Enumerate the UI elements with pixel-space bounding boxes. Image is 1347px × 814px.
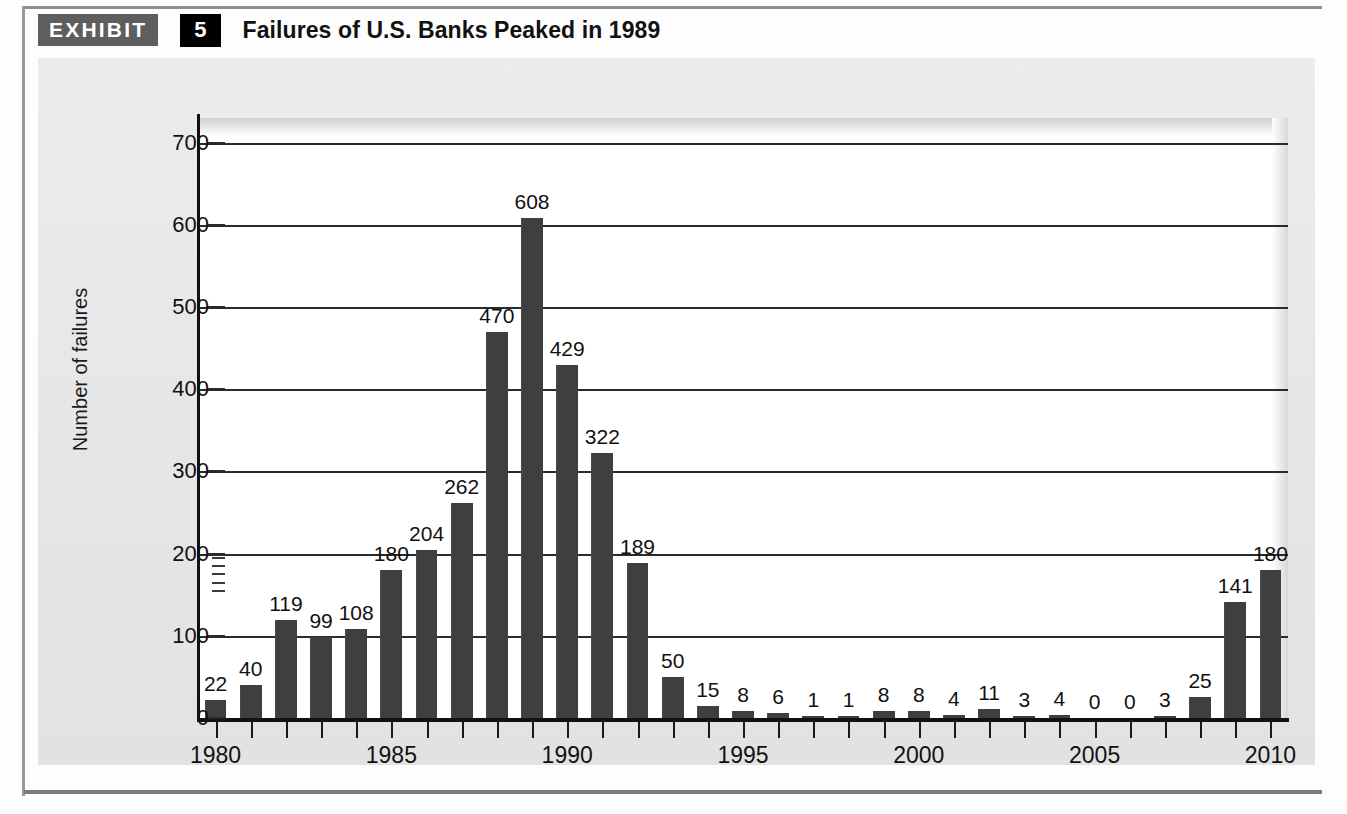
bar-value-label: 15 — [696, 678, 719, 702]
bar — [240, 685, 262, 718]
exhibit-badge: EXHIBIT — [38, 14, 158, 46]
bar-value-label: 3 — [1159, 688, 1171, 712]
y-axis-minor-tick — [212, 590, 225, 592]
x-axis-tick-mark — [638, 722, 640, 738]
bar-value-label: 40 — [239, 657, 262, 681]
y-axis-tick-mark — [208, 306, 225, 308]
x-axis-tick-label: 2005 — [1069, 742, 1120, 769]
bar-value-label: 180 — [374, 542, 409, 566]
bar-value-label: 50 — [661, 649, 684, 673]
x-axis-tick-mark — [286, 722, 288, 738]
bar — [1260, 570, 1282, 718]
page-title: Failures of U.S. Banks Peaked in 1989 — [243, 17, 661, 44]
exhibit-number: 5 — [180, 14, 220, 47]
bar-value-label: 608 — [515, 190, 550, 214]
bar-value-label: 8 — [737, 683, 749, 707]
exhibit-header: EXHIBIT 5 Failures of U.S. Banks Peaked … — [38, 12, 660, 48]
y-axis-tick-label: 600 — [139, 212, 209, 238]
x-axis-tick-mark — [602, 722, 604, 738]
bar — [521, 218, 543, 718]
y-axis-tick-mark — [208, 635, 225, 637]
bar — [1224, 602, 1246, 718]
y-axis-minor-tick — [212, 565, 225, 567]
bar-value-label: 25 — [1188, 669, 1211, 693]
bar — [556, 365, 578, 718]
y-axis-tick-label: 200 — [139, 541, 209, 567]
y-axis-minor-tick — [212, 557, 225, 559]
y-axis-tick-mark — [208, 142, 225, 144]
x-axis-tick-mark — [1235, 722, 1237, 738]
plot-top-shading — [198, 118, 1288, 136]
bar — [451, 503, 473, 718]
y-axis-tick-mark — [208, 224, 225, 226]
y-axis-minor-tick — [212, 573, 225, 575]
bar — [1189, 697, 1211, 718]
bar-value-label: 4 — [1054, 687, 1066, 711]
x-axis-tick-mark — [497, 722, 499, 738]
y-axis-minor-tick — [212, 582, 225, 584]
chart-panel: Number of failures 010020030040050060070… — [38, 58, 1315, 765]
x-axis-tick-mark — [848, 722, 850, 738]
top-divider — [22, 6, 1322, 9]
left-divider — [22, 6, 25, 796]
x-axis-tick-mark — [321, 722, 323, 738]
bar — [486, 332, 508, 718]
x-axis-tick-mark — [1200, 722, 1202, 738]
x-axis-tick-mark — [1024, 722, 1026, 738]
x-axis-tick-label: 2000 — [893, 742, 944, 769]
x-axis-tick-label: 1980 — [190, 742, 241, 769]
bar-value-label: 0 — [1089, 690, 1101, 714]
y-axis-tick-label: 0 — [139, 705, 209, 731]
bar — [627, 563, 649, 718]
x-axis-tick-mark — [1095, 722, 1097, 738]
bar-value-label: 108 — [339, 601, 374, 625]
bar-value-label: 189 — [620, 535, 655, 559]
bar-value-label: 429 — [550, 337, 585, 361]
gridline — [198, 554, 1288, 556]
y-axis-tick-mark — [208, 388, 225, 390]
x-axis-tick-label: 1995 — [717, 742, 768, 769]
x-axis-tick-mark — [427, 722, 429, 738]
y-axis-title: Number of failures — [69, 160, 92, 580]
x-axis-tick-mark — [1059, 722, 1061, 738]
y-axis-tick-label: 700 — [139, 130, 209, 156]
x-axis-tick-mark — [919, 722, 921, 738]
y-axis-tick-label: 500 — [139, 294, 209, 320]
bar-value-label: 6 — [772, 685, 784, 709]
bar-value-label: 11 — [978, 681, 1000, 705]
x-axis-tick-mark — [391, 722, 393, 738]
gridline — [198, 307, 1288, 309]
exhibit-page: EXHIBIT 5 Failures of U.S. Banks Peaked … — [0, 0, 1347, 814]
x-axis-tick-mark — [743, 722, 745, 738]
bar — [380, 570, 402, 718]
y-axis-tick-mark — [208, 470, 225, 472]
bar-value-label: 0 — [1124, 690, 1136, 714]
bar — [416, 550, 438, 718]
y-axis-tick-label: 400 — [139, 376, 209, 402]
y-axis-tick-label: 300 — [139, 458, 209, 484]
bar-value-label: 180 — [1253, 542, 1288, 566]
x-axis-tick-mark — [216, 722, 218, 738]
plot-area — [198, 118, 1288, 718]
bar — [345, 629, 367, 718]
x-axis-tick-mark — [532, 722, 534, 738]
y-axis-tick-mark — [208, 553, 225, 555]
x-axis-tick-mark — [954, 722, 956, 738]
bar — [697, 706, 719, 718]
x-axis-tick-mark — [356, 722, 358, 738]
bar-value-label: 262 — [444, 475, 479, 499]
x-axis-tick-label: 2010 — [1245, 742, 1296, 769]
x-axis-tick-mark — [673, 722, 675, 738]
bar-value-label: 8 — [913, 683, 925, 707]
bar-value-label: 99 — [309, 609, 332, 633]
x-axis-tick-mark — [251, 722, 253, 738]
x-axis-tick-mark — [1130, 722, 1132, 738]
gridline — [198, 389, 1288, 391]
bar-value-label: 204 — [409, 522, 444, 546]
bar — [310, 637, 332, 718]
x-axis-tick-mark — [708, 722, 710, 738]
gridline — [198, 143, 1288, 145]
bar — [662, 677, 684, 718]
bar — [978, 709, 1000, 718]
x-axis-tick-mark — [989, 722, 991, 738]
